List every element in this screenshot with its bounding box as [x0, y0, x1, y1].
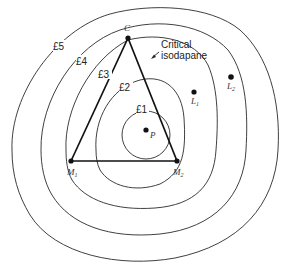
label-isodapane-4: £4: [76, 56, 88, 67]
label-l1: L1: [190, 96, 199, 107]
isodapane-1: [122, 111, 170, 159]
point-l2: [228, 74, 234, 80]
isodapane-5: [12, 8, 278, 262]
label-isodapane-2: £2: [119, 82, 131, 93]
label-isodapane-1: £1: [136, 104, 148, 115]
isodapane-diagram: C M1 M2 P L1 L2 £5 £4 £3 £2 £1 Critical …: [0, 0, 283, 267]
label-isodapane-3: £3: [98, 69, 110, 80]
critical-isodapane-label-line1: Critical: [161, 39, 192, 50]
critical-isodapane-label-line2: isodapane: [161, 50, 208, 61]
label-l2: L2: [226, 81, 235, 92]
point-c: [125, 35, 130, 40]
label-p: P: [149, 130, 156, 140]
point-l1: [191, 89, 196, 94]
point-m1: [68, 158, 73, 163]
isodapane-2: [96, 79, 185, 188]
point-m2: [174, 158, 179, 163]
point-p: [143, 127, 148, 132]
label-c: C: [124, 23, 131, 33]
label-m1: M1: [66, 167, 78, 178]
label-isodapane-5: £5: [53, 41, 65, 52]
label-m2: M2: [172, 167, 184, 178]
